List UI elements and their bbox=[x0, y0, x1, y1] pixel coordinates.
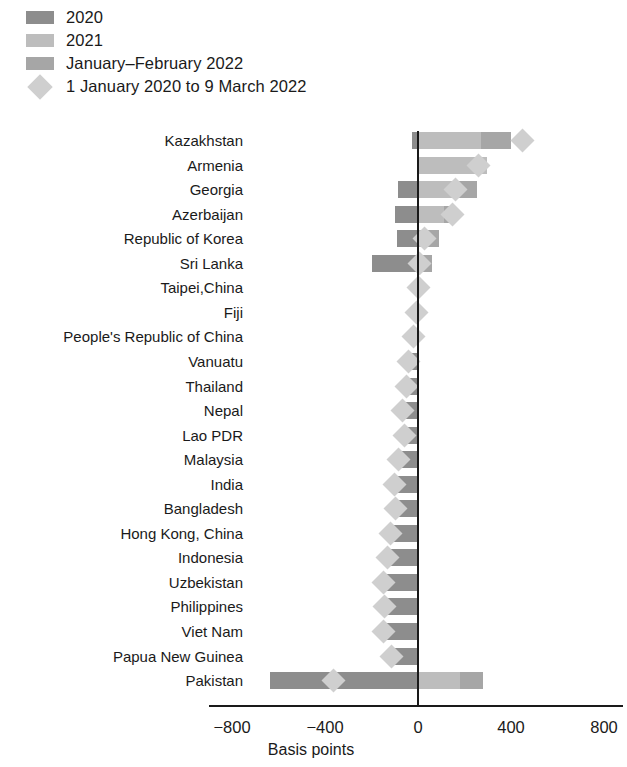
bar-segment-2021 bbox=[418, 132, 481, 149]
category-label: Malaysia bbox=[184, 452, 243, 468]
x-axis-title: Basis points bbox=[0, 741, 622, 759]
x-axis-zero-tick bbox=[417, 700, 419, 706]
x-axis-line bbox=[209, 705, 623, 707]
category-label: Azerbaijan bbox=[172, 207, 243, 223]
category-label: Georgia bbox=[190, 182, 243, 198]
bar-segment-2020 bbox=[395, 206, 418, 223]
category-label: Lao PDR bbox=[182, 428, 243, 444]
category-label: Republic of Korea bbox=[124, 231, 243, 247]
category-label: Kazakhstan bbox=[165, 133, 243, 149]
category-label: Hong Kong, China bbox=[120, 526, 243, 542]
category-label: Sri Lanka bbox=[180, 256, 243, 272]
category-label: Indonesia bbox=[178, 550, 243, 566]
category-label: Uzbekistan bbox=[169, 575, 243, 591]
zero-reference-line bbox=[417, 131, 419, 704]
category-label: India bbox=[210, 477, 243, 493]
bar-segment-jan-feb-2022 bbox=[460, 672, 483, 689]
x-tick-label: 800 bbox=[564, 718, 627, 737]
category-label: Philippines bbox=[170, 599, 243, 615]
category-axis-labels: KazakhstanArmeniaGeorgiaAzerbaijanRepubl… bbox=[0, 0, 243, 767]
bar-segment-jan-feb-2022 bbox=[481, 132, 511, 149]
bar-segment-2020 bbox=[398, 181, 418, 198]
x-tick-label: −800 bbox=[192, 718, 272, 737]
category-label: Taipei,China bbox=[160, 280, 243, 296]
category-label: Pakistan bbox=[185, 673, 243, 689]
category-label: Papua New Guinea bbox=[113, 649, 243, 665]
x-tick-label: 0 bbox=[378, 718, 458, 737]
category-label: People's Republic of China bbox=[63, 329, 243, 345]
marker-diamond-icon bbox=[511, 128, 535, 152]
category-label: Armenia bbox=[187, 158, 243, 174]
marker-diamond-icon bbox=[401, 325, 425, 349]
x-tick-label: 400 bbox=[471, 718, 551, 737]
category-label: Vanuatu bbox=[188, 354, 243, 370]
x-tick-label: −400 bbox=[285, 718, 365, 737]
category-label: Viet Nam bbox=[182, 624, 243, 640]
category-label: Nepal bbox=[204, 403, 243, 419]
category-label: Thailand bbox=[185, 379, 243, 395]
bar-segment-2021 bbox=[418, 672, 460, 689]
category-label: Fiji bbox=[224, 305, 243, 321]
category-label: Bangladesh bbox=[164, 501, 243, 517]
